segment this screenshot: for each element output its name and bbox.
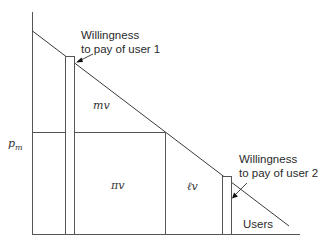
user1-bar xyxy=(66,57,75,235)
region-label-piv: πv xyxy=(111,180,124,192)
y-axis-label-p: p xyxy=(8,137,15,150)
region-label-mv: mv xyxy=(93,100,110,112)
user2-annotation-line1: Willingness xyxy=(239,152,297,166)
user2-arrow-icon xyxy=(232,183,247,199)
user1-annotation-line2: to pay of user 1 xyxy=(81,42,160,56)
user2-annotation-line2: to pay of user 2 xyxy=(239,166,318,180)
user2-bar xyxy=(223,177,232,235)
demand-diagram xyxy=(0,0,324,248)
x-axis-label: Users xyxy=(243,217,273,231)
region-label-lv: ℓv xyxy=(187,181,198,193)
y-axis-label-subscript: m xyxy=(15,143,23,152)
user1-annotation-line1: Willingness xyxy=(81,28,139,42)
y-axis-label: pm xyxy=(8,138,23,154)
